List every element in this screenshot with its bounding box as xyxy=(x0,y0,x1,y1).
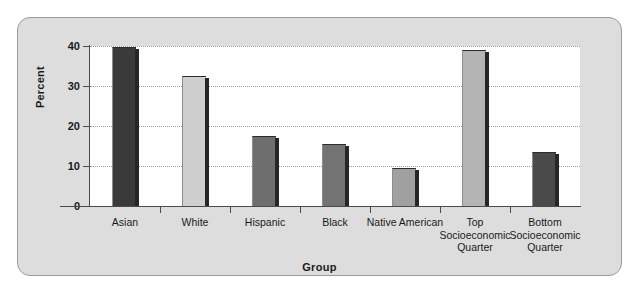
bar-body xyxy=(462,50,486,206)
x-tick-4 xyxy=(370,206,371,213)
bar xyxy=(112,48,139,206)
x-tick-6 xyxy=(510,206,511,213)
bar-shadow xyxy=(555,154,559,206)
bar-body xyxy=(322,144,346,206)
bar-shadow xyxy=(275,138,279,206)
bar-shadow xyxy=(415,170,419,206)
chart-panel: Percent 010203040 AsianWhiteHispanicBlac… xyxy=(17,17,622,276)
x-axis-line xyxy=(60,206,581,207)
gridline-20 xyxy=(90,126,580,127)
bar xyxy=(322,145,349,206)
bar-body xyxy=(252,136,276,206)
x-tick-3 xyxy=(300,206,301,213)
gridline-30 xyxy=(90,86,580,87)
bar-body xyxy=(182,76,206,206)
x-tick-5 xyxy=(440,206,441,213)
bar-body xyxy=(392,168,416,206)
bar-body xyxy=(532,152,556,206)
gridline-40 xyxy=(90,46,580,47)
bar-shadow xyxy=(205,78,209,206)
y-tick-label-30: 30 xyxy=(54,81,80,92)
y-tick-label-10: 10 xyxy=(54,161,80,172)
x-axis-title: Group xyxy=(18,261,621,273)
x-tick-label: BottomSocioeconomicQuarter xyxy=(502,216,588,254)
bar-body xyxy=(112,47,136,206)
bar xyxy=(462,51,489,206)
bar-shadow xyxy=(485,52,489,206)
y-tick-label-40: 40 xyxy=(54,41,80,52)
plot-area xyxy=(90,46,580,206)
bar xyxy=(252,137,279,206)
bar xyxy=(532,153,559,206)
bar xyxy=(392,169,419,206)
y-tick-label-20: 20 xyxy=(54,121,80,132)
x-tick-2 xyxy=(230,206,231,213)
y-axis-tick-labels: 010203040 xyxy=(28,18,80,275)
x-tick-1 xyxy=(160,206,161,213)
bar xyxy=(182,77,209,206)
bar-shadow xyxy=(135,49,139,206)
bar-shadow xyxy=(345,146,349,206)
